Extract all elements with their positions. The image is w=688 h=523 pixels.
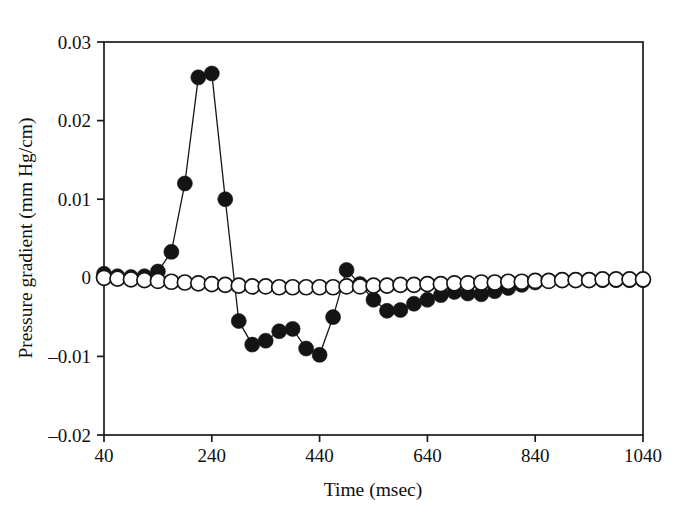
data-point-filled <box>366 292 381 307</box>
data-point-filled <box>245 337 260 352</box>
data-point-filled <box>379 303 394 318</box>
x-axis-ticks <box>104 435 643 442</box>
data-point-filled <box>420 292 435 307</box>
y-axis-title: Pressure gradient (mm Hg/cm) <box>15 118 37 359</box>
data-point-filled <box>299 341 314 356</box>
data-point-filled <box>258 333 273 348</box>
figure-container: 402404406408401040 0.030.020.010–0.01–0.… <box>0 0 688 523</box>
series-open-circles <box>97 270 651 294</box>
series-line <box>104 73 643 354</box>
y-axis-tick-labels: 0.030.020.010–0.01–0.02 <box>47 32 91 446</box>
data-point-filled <box>272 324 287 339</box>
data-point-open <box>636 272 651 287</box>
y-tick-label: 0.01 <box>58 189 91 210</box>
y-tick-label: –0.01 <box>47 346 91 367</box>
data-point-filled <box>406 296 421 311</box>
data-point-filled <box>339 262 354 277</box>
x-tick-label: 240 <box>198 445 227 466</box>
x-axis-tick-labels: 402404406408401040 <box>95 445 663 466</box>
y-tick-label: –0.02 <box>47 425 91 446</box>
data-point-filled <box>218 192 233 207</box>
y-axis-ticks <box>97 42 104 435</box>
data-point-filled <box>164 244 179 259</box>
x-tick-label: 1040 <box>624 445 662 466</box>
data-point-filled <box>204 66 219 81</box>
data-point-filled <box>177 176 192 191</box>
x-tick-label: 440 <box>305 445 334 466</box>
data-point-filled <box>312 347 327 362</box>
data-point-filled <box>326 310 341 325</box>
y-tick-label: 0.03 <box>58 32 91 53</box>
data-series-layer <box>97 66 651 362</box>
series-filled-circles <box>97 66 651 362</box>
data-point-filled <box>231 314 246 329</box>
data-point-filled <box>191 70 206 85</box>
y-tick-label: 0.02 <box>58 110 91 131</box>
y-tick-label: 0 <box>82 267 92 288</box>
x-axis-title: Time (msec) <box>324 479 422 501</box>
x-tick-label: 40 <box>95 445 114 466</box>
plot-frame <box>104 42 643 435</box>
x-tick-label: 840 <box>521 445 550 466</box>
data-point-filled <box>285 321 300 336</box>
x-tick-label: 640 <box>413 445 442 466</box>
data-point-filled <box>393 303 408 318</box>
chart-canvas: 402404406408401040 0.030.020.010–0.01–0.… <box>0 0 688 523</box>
